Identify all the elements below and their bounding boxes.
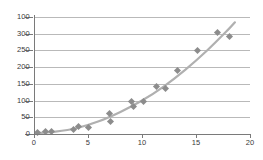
y-axis-tick-label: 0 — [0, 130, 30, 138]
y-axis-tick-label: 250 — [0, 46, 30, 54]
x-axis-tick-label: 10 — [130, 139, 154, 147]
y-axis-tick-label: 150 — [0, 80, 30, 88]
y-axis-tick-label: 100 — [0, 97, 30, 105]
x-axis-tick-label: 15 — [184, 139, 208, 147]
x-axis-tick-label: 20 — [238, 139, 262, 147]
x-axis-tick-label: 0 — [22, 139, 46, 147]
y-axis-tick-label: 200 — [0, 63, 30, 71]
gridline — [34, 50, 250, 51]
y-axis-tick-label: 100 — [0, 13, 30, 21]
y-axis-tick-label: 50 — [0, 113, 30, 121]
gridline — [34, 84, 250, 85]
gridline — [34, 67, 250, 68]
gridline — [34, 17, 250, 18]
y-axis-tick-label: 300 — [0, 30, 30, 38]
scatter-chart: 050100150200250300100 05101520 — [0, 0, 263, 160]
gridline — [34, 117, 250, 118]
y-axis-line — [34, 15, 35, 136]
x-axis-tick-label: 5 — [76, 139, 100, 147]
